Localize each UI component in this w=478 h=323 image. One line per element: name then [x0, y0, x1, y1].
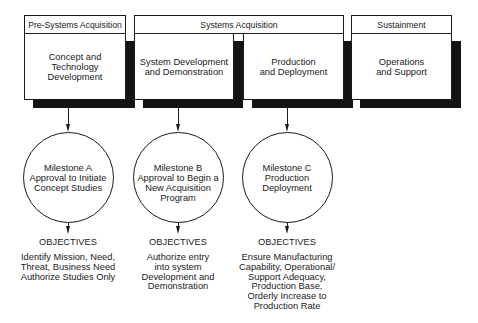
activity-label: System Development and Demonstration: [140, 57, 228, 77]
phase-header-systems-acquisition: Systems Acquisition: [134, 15, 344, 34]
activity-label: Concept and Technology Development: [48, 52, 103, 82]
phase-label: Sustainment: [377, 20, 425, 30]
activity-box-system-development-demonstration: System Development and Demonstration: [134, 33, 234, 100]
phase-label: Pre-Systems Acquisition: [28, 20, 122, 30]
arrow-down-icon: [285, 124, 289, 132]
arrow-down-icon: [176, 124, 180, 132]
activity-box-concept-technology-development: Concept and Technology Development: [24, 33, 126, 100]
milestone-a-label: Milestone A Approval to Initiate Concept…: [18, 163, 118, 193]
objectives-heading: OBJECTIVES: [222, 237, 352, 247]
connector-line: [178, 107, 179, 125]
acquisition-process-diagram: Pre-Systems Acquisition Systems Acquisit…: [0, 0, 478, 323]
phase-label: Systems Acquisition: [200, 20, 277, 30]
connector-line: [287, 107, 288, 125]
activity-label: Operations and Support: [376, 57, 427, 77]
arrow-down-icon: [66, 124, 70, 132]
arrow-down-icon: [285, 226, 289, 234]
milestone-b-label: Milestone B Approval to Begin a New Acqu…: [128, 163, 228, 203]
connector-line: [68, 107, 69, 125]
arrow-down-icon: [176, 226, 180, 234]
objectives-text-milestone-c: Ensure Manufacturing Capability, Operati…: [222, 253, 352, 312]
activity-label: Production and Deployment: [260, 57, 328, 77]
milestone-c-label: Milestone C Production Deployment: [237, 163, 337, 193]
activity-box-operations-support: Operations and Support: [351, 33, 452, 100]
phase-header-sustainment: Sustainment: [351, 15, 452, 34]
activity-box-production-deployment: Production and Deployment: [243, 33, 344, 100]
arrow-down-icon: [66, 226, 70, 234]
phase-header-pre-systems-acquisition: Pre-Systems Acquisition: [24, 15, 126, 34]
